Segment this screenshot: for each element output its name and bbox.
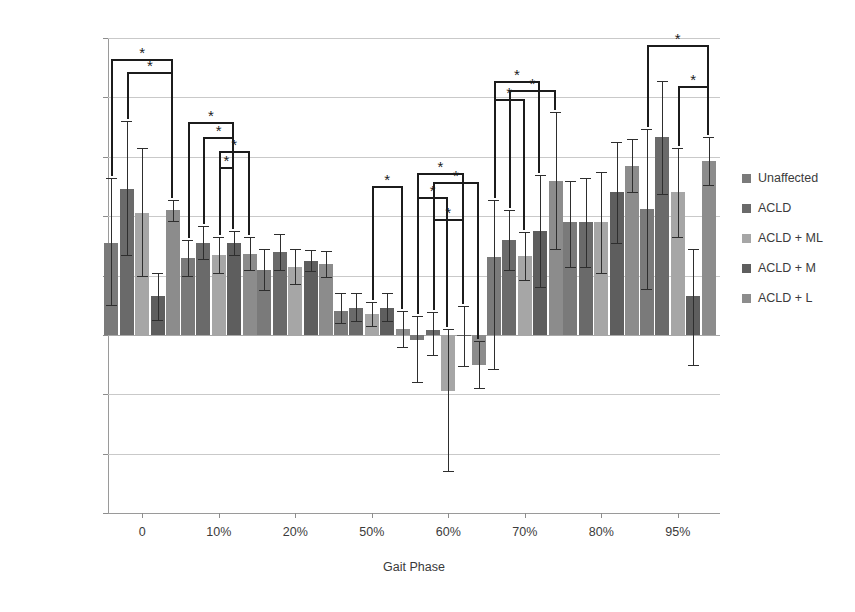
error-bar-cap	[168, 200, 179, 201]
bracket-leg-left	[372, 186, 374, 300]
legend-item: ACLD + L	[742, 283, 852, 313]
error-bar	[678, 148, 679, 237]
x-tick-mark	[525, 513, 526, 518]
error-bar-cap	[458, 366, 469, 367]
bracket-leg-right	[538, 81, 540, 173]
x-tick-label: 50%	[337, 525, 407, 539]
error-bar-cap	[596, 172, 607, 173]
error-bar	[219, 237, 220, 273]
error-bar-cap	[672, 237, 683, 238]
error-bar-cap	[550, 249, 561, 250]
error-bar-cap	[106, 305, 117, 306]
bracket-leg-left	[417, 197, 419, 314]
error-bar-cap	[274, 270, 285, 271]
error-bar	[250, 237, 251, 270]
error-bar-cap	[580, 178, 591, 179]
error-bar	[494, 200, 495, 369]
y-tick-mark	[103, 97, 108, 98]
significance-star: *	[687, 73, 699, 86]
error-bar-cap	[244, 270, 255, 271]
error-bar-cap	[305, 250, 316, 251]
error-bar	[662, 81, 663, 194]
error-bar-cap	[168, 221, 179, 222]
legend-label: ACLD + M	[758, 261, 816, 275]
legend-item: ACLD + M	[742, 253, 852, 283]
significance-star: *	[221, 154, 233, 167]
x-axis-label: Gait Phase	[108, 560, 720, 574]
error-bar-cap	[335, 293, 346, 294]
error-bar-cap	[305, 271, 316, 272]
y-tick-mark	[103, 157, 108, 158]
bracket-leg-left	[509, 90, 511, 209]
gridline	[108, 157, 720, 158]
error-bar	[540, 175, 541, 288]
error-bar	[111, 178, 112, 306]
error-bar	[617, 142, 618, 243]
bracket-leg-right	[554, 90, 556, 111]
error-bar	[433, 312, 434, 355]
significance-star: *	[144, 59, 156, 72]
legend-label: ACLD + L	[758, 291, 813, 305]
significance-star: *	[228, 138, 240, 151]
legend-swatch-icon	[742, 294, 751, 303]
bracket-leg-left	[203, 137, 205, 224]
error-bar-cap	[274, 234, 285, 235]
x-tick-mark	[678, 513, 679, 518]
error-bar-cap	[458, 306, 469, 307]
error-bar-cap	[229, 231, 240, 232]
error-bar-cap	[535, 287, 546, 288]
error-bar-cap	[121, 255, 132, 256]
error-bar-cap	[182, 276, 193, 277]
legend-label: ACLD	[758, 201, 791, 215]
error-bar-cap	[382, 321, 393, 322]
significance-star: *	[435, 160, 447, 173]
y-tick-mark	[103, 454, 108, 455]
error-bar-cap	[351, 293, 362, 294]
error-bar	[280, 234, 281, 270]
error-bar	[372, 302, 373, 326]
error-bar-cap	[641, 289, 652, 290]
error-bar-cap	[519, 280, 530, 281]
error-bar-cap	[137, 148, 148, 149]
error-bar	[693, 249, 694, 365]
chart-figure: Knee Rotation Moment Nm/Kg·m 0.050.040.0…	[0, 0, 855, 612]
error-bar-cap	[152, 320, 163, 321]
x-tick-label: 80%	[566, 525, 636, 539]
significance-star: *	[381, 173, 393, 186]
error-bar-cap	[443, 329, 454, 330]
error-bar	[203, 226, 204, 259]
error-bar	[326, 251, 327, 277]
bracket-leg-left	[678, 86, 680, 146]
error-bar-cap	[474, 341, 485, 342]
error-bar-cap	[321, 251, 332, 252]
error-bar-cap	[688, 249, 699, 250]
error-bar-cap	[213, 273, 224, 274]
x-tick-label: 60%	[413, 525, 483, 539]
error-bar-cap	[550, 112, 561, 113]
error-bar-cap	[611, 243, 622, 244]
bracket-leg-right	[232, 167, 234, 229]
error-bar	[173, 200, 174, 221]
error-bar-cap	[213, 237, 224, 238]
x-tick-label: 70%	[490, 525, 560, 539]
x-tick-mark	[448, 513, 449, 518]
plot-area: 0.050.040.030.020.010-0.01-0.02-0.03 ***…	[108, 38, 720, 513]
error-bar-cap	[504, 210, 515, 211]
error-bar-cap	[641, 129, 652, 130]
error-bar	[601, 172, 602, 273]
error-bar-cap	[443, 471, 454, 472]
bracket-leg-right	[477, 182, 479, 339]
x-tick-label: 10%	[184, 525, 254, 539]
error-bar-cap	[366, 302, 377, 303]
error-bar-cap	[321, 277, 332, 278]
x-tick-mark	[295, 513, 296, 518]
error-bar-cap	[137, 276, 148, 277]
error-bar-cap	[152, 273, 163, 274]
significance-star: *	[503, 86, 515, 99]
bracket-leg-right	[523, 99, 525, 231]
x-axis-line	[108, 513, 720, 514]
error-bar-cap	[351, 321, 362, 322]
legend-label: Unaffected	[758, 171, 818, 185]
x-tick-label: 0	[107, 525, 177, 539]
legend-item: Unaffected	[742, 163, 852, 193]
